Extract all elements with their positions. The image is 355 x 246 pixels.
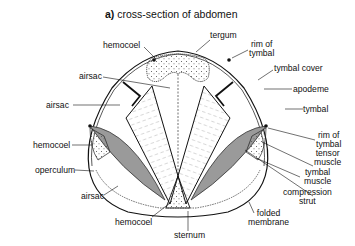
label-tensor-muscle: tensormuscle <box>314 149 341 167</box>
rim-dot-left <box>88 124 92 128</box>
label-tymbal-cover: tymbal cover <box>274 64 323 73</box>
label-airsac-upper: airsac <box>79 72 102 81</box>
abdomen-cross-section-diagram <box>0 0 355 246</box>
label-airsac-lower: airsac <box>81 192 104 201</box>
label-compression-strut: compressionstrut <box>283 188 332 206</box>
label-hemocoel-bottom: hemocoel <box>115 218 152 227</box>
label-hemocoel-top: hemocoel <box>103 41 140 50</box>
label-tergum: tergum <box>210 31 237 40</box>
label-folded-membrane: foldedmembrane <box>248 209 289 227</box>
rim-dot-top-left <box>152 58 156 62</box>
label-airsac-left: airsac <box>46 101 69 110</box>
label-rim-of-tymbal-top: rim oftymbal <box>249 40 274 58</box>
label-tymbal-muscle: tymbalmuscle <box>304 168 331 186</box>
rim-dot-top-right <box>227 58 231 62</box>
label-operculum: operculum <box>35 166 75 175</box>
rim-dot-right <box>264 124 268 128</box>
label-sternum: sternum <box>174 231 205 240</box>
label-hemocoel-left: hemocoel <box>33 141 70 150</box>
label-apodeme: apodeme <box>293 85 329 94</box>
label-rim-of-tymbal-right: rim oftymbal <box>316 131 341 149</box>
label-tymbal: tymbal <box>303 105 328 114</box>
